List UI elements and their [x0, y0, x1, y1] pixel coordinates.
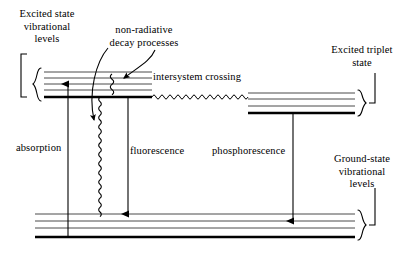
label-intersystem-crossing: intersystem crossing [153, 71, 263, 84]
excited-triplet-bracket [369, 73, 375, 103]
excited-triplet-state-levels [248, 93, 355, 113]
ground-state-brace [358, 210, 366, 240]
non-radiative-leader-right [124, 50, 155, 78]
excited-singlet-state-levels [44, 72, 152, 97]
excited-state-bracket [21, 54, 27, 97]
label-phosphorescence: phosphorescence [212, 145, 298, 158]
label-ground-state-vibrational-levels: Ground-state vibrational levels [318, 153, 406, 191]
ground-state-levels [35, 214, 355, 237]
label-non-radiative-decay-processes: non-radiative decay processes [98, 24, 190, 49]
jablonski-diagram: Excited state vibrational levels non-rad… [0, 0, 409, 256]
label-excited-state-vibrational-levels: Excited state vibrational levels [4, 8, 90, 46]
excited-triplet-brace [358, 90, 366, 116]
ground-state-bracket [369, 188, 375, 225]
label-absorption: absorption [16, 142, 78, 155]
excited-state-brace [33, 68, 41, 101]
intersystem-crossing-wave [152, 95, 248, 99]
label-excited-triplet-state: Excited triplet state [318, 44, 406, 69]
label-fluorescence: fluorescence [130, 145, 200, 158]
non-radiative-decay-squiggle [99, 97, 102, 217]
